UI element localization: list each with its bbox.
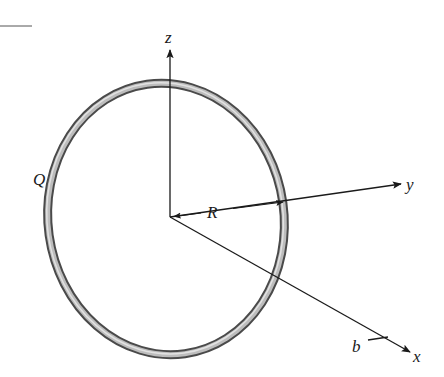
radius-arrow: [174, 213, 201, 217]
radius-label: R: [206, 203, 218, 222]
x-axis: [170, 217, 410, 352]
z-axis-label: z: [164, 28, 172, 47]
y-axis-label: y: [404, 175, 414, 194]
x-axis-label: x: [412, 347, 421, 366]
point-b-label: b: [352, 337, 361, 356]
ring-charge-diagram: z y x Q R b: [0, 0, 444, 377]
charged-ring: [29, 67, 301, 370]
charge-label: Q: [33, 170, 45, 189]
radius-arrow-right: [233, 202, 283, 209]
